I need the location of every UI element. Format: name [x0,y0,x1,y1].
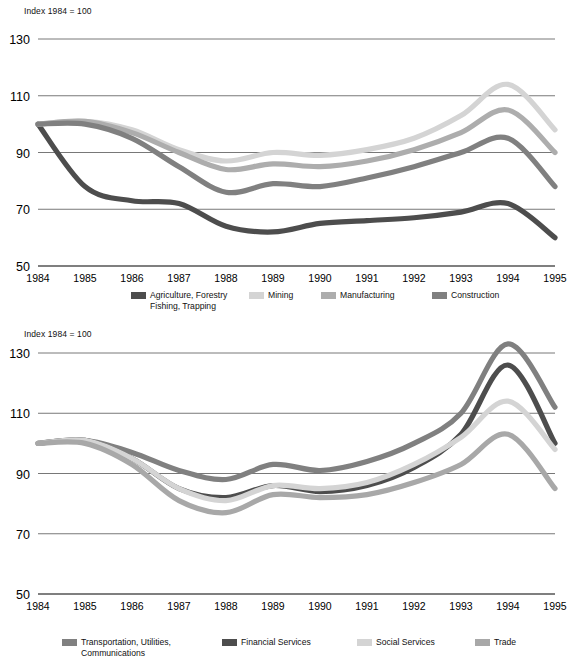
series-line [38,123,555,193]
legend-swatch-icon [321,292,336,299]
series-line [38,124,555,238]
plot-area-bottom: 5070901101301984198519861987198819891990… [0,325,571,625]
chart-service-sectors: Index 1984 = 100 50709011013019841985198… [0,325,571,672]
x-tick-label: 1991 [355,272,379,284]
x-tick-label: 1993 [449,600,473,612]
x-tick-label: 1986 [120,272,144,284]
series-line [38,110,555,170]
legend-item[interactable]: Financial Services [222,637,311,648]
x-tick-label: 1985 [73,272,97,284]
x-tick-label: 1994 [496,272,520,284]
y-tick-label: 130 [9,347,30,361]
legend-bottom: Transportation, Utilities, Communication… [0,637,571,661]
y-tick-label: 130 [9,33,30,47]
x-tick-label: 1989 [261,600,285,612]
legend-label: Trade [494,637,516,648]
x-tick-label: 1995 [543,600,567,612]
legend-label: Agriculture, Forestry Fishing, Trapping [150,290,227,312]
legend-item[interactable]: Social Services [357,637,435,648]
x-tick-label: 1989 [261,272,285,284]
legend-label: Mining [268,290,293,301]
x-tick-label: 1993 [449,272,473,284]
x-tick-label: 1987 [167,600,191,612]
x-tick-label: 1984 [26,600,50,612]
x-tick-label: 1995 [543,272,567,284]
legend-swatch-icon [131,292,146,299]
y-tick-label: 90 [16,147,30,161]
legend-swatch-icon [432,292,447,299]
plot-svg-top: 5070901101301984198519861987198819891990… [0,0,571,285]
legend-label: Manufacturing [340,290,394,301]
x-tick-label: 1994 [496,600,520,612]
legend-swatch-icon [222,639,237,646]
x-tick-label: 1984 [26,272,50,284]
legend-item[interactable]: Construction [432,290,499,301]
x-tick-label: 1988 [214,600,238,612]
legend-swatch-icon [357,639,372,646]
legend-item[interactable]: Mining [249,290,293,301]
x-tick-label: 1992 [402,600,426,612]
x-tick-label: 1987 [167,272,191,284]
legend-label: Transportation, Utilities, Communication… [81,637,171,659]
legend-label: Social Services [376,637,435,648]
chart-industrial-sectors: Index 1984 = 100 50709011013019841985198… [0,0,571,318]
legend-swatch-icon [249,292,264,299]
y-tick-label: 110 [10,407,30,421]
x-tick-label: 1992 [402,272,426,284]
legend-item[interactable]: Trade [475,637,516,648]
legend-swatch-icon [62,639,77,646]
legend-item[interactable]: Manufacturing [321,290,394,301]
legend-label: Financial Services [241,637,311,648]
y-tick-label: 90 [16,468,30,482]
plot-area-top: 5070901101301984198519861987198819891990… [0,0,571,285]
figure-container: Index 1984 = 100 50709011013019841985198… [0,0,571,672]
y-tick-label: 70 [16,203,30,217]
legend-item[interactable]: Agriculture, Forestry Fishing, Trapping [131,290,227,312]
x-tick-label: 1990 [308,600,332,612]
x-tick-label: 1986 [120,600,144,612]
x-tick-label: 1988 [214,272,238,284]
legend-top: Agriculture, Forestry Fishing, TrappingM… [0,290,571,314]
y-tick-label: 110 [10,90,30,104]
y-tick-label: 70 [16,528,30,542]
x-tick-label: 1985 [73,600,97,612]
plot-svg-bottom: 5070901101301984198519861987198819891990… [0,325,571,625]
legend-swatch-icon [475,639,490,646]
x-tick-label: 1990 [308,272,332,284]
legend-item[interactable]: Transportation, Utilities, Communication… [62,637,171,659]
x-tick-label: 1991 [355,600,379,612]
legend-label: Construction [451,290,499,301]
